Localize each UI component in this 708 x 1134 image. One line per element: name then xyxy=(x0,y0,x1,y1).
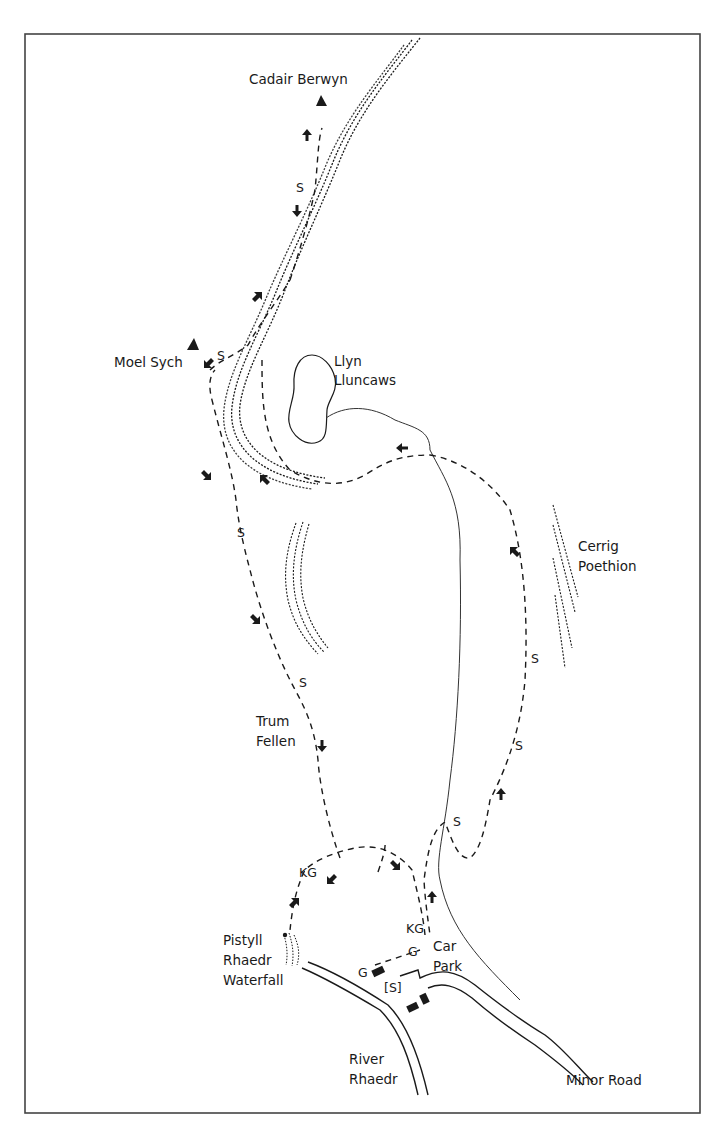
kissing-gate-marker: KG xyxy=(299,865,317,880)
label-cerrig: Cerrig xyxy=(578,537,619,556)
arrow-down-right-icon xyxy=(388,858,402,872)
stile-marker: S xyxy=(453,814,461,829)
arrow-up-left-icon xyxy=(508,545,522,559)
arrow-up-right-icon xyxy=(250,290,264,304)
label-llyn: Llyn xyxy=(334,352,362,371)
summit-triangle-icon xyxy=(316,95,327,106)
stile-marker: S xyxy=(531,651,539,666)
label-lluncaws: Lluncaws xyxy=(334,371,396,390)
label-car: Car xyxy=(433,937,456,956)
arrow-up-icon xyxy=(300,128,314,142)
lake-llyn-lluncaws xyxy=(289,355,336,443)
label-fellen: Fellen xyxy=(256,732,296,751)
walking-route xyxy=(210,128,526,965)
stile-marker: S xyxy=(299,675,307,690)
arrow-down-icon xyxy=(290,204,304,218)
arrow-down-right-icon xyxy=(199,468,213,482)
waterfall-top-icon xyxy=(283,933,287,937)
stream xyxy=(326,408,520,1000)
arrow-up-icon xyxy=(425,890,439,904)
label-minor-road: Minor Road xyxy=(566,1071,642,1090)
arrow-up-icon xyxy=(494,787,508,801)
kissing-gate-marker: KG xyxy=(406,921,424,936)
label-pistyll: Pistyll xyxy=(223,931,262,950)
crag-trum-fellen xyxy=(286,522,328,654)
arrow-down-left-icon xyxy=(325,872,339,886)
stile-marker: S xyxy=(296,180,304,195)
label-cadair-berwyn: Cadair Berwyn xyxy=(249,70,348,89)
stile-marker: S xyxy=(515,738,523,753)
label-river: River xyxy=(349,1050,384,1069)
arrow-down-icon xyxy=(315,739,329,753)
label-trum: Trum xyxy=(256,712,290,731)
stile-marker: S xyxy=(237,525,245,540)
arrow-down-right-icon xyxy=(248,612,262,626)
label-river-rhaedr: Rhaedr xyxy=(349,1070,398,1089)
waterfall-pistyll-rhaedr xyxy=(284,933,299,966)
arrow-down-left-icon xyxy=(202,356,216,370)
label-park: Park xyxy=(433,957,462,976)
label-moel-sych: Moel Sych xyxy=(114,353,183,372)
minor-road xyxy=(400,970,593,1085)
gate-marker: G xyxy=(358,965,368,980)
arrow-up-left-icon xyxy=(258,473,272,487)
label-poethion: Poethion xyxy=(578,557,637,576)
gate-marker: G xyxy=(408,944,418,959)
stile-marker: S xyxy=(217,348,225,363)
crag-cerrig-poethion xyxy=(553,505,578,668)
label-waterfall: Waterfall xyxy=(223,971,283,990)
arrow-up-right-icon xyxy=(287,896,301,910)
label-rhaedr: Rhaedr xyxy=(223,951,272,970)
summit-triangle-icon xyxy=(187,338,199,350)
stile-optional-marker: [S] xyxy=(384,980,402,995)
arrow-left-icon xyxy=(395,441,409,455)
